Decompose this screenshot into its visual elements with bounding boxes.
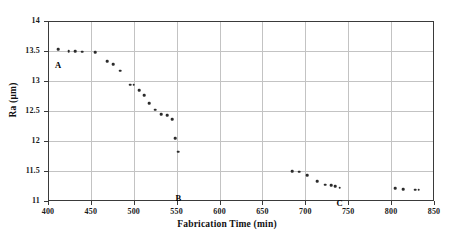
data-point xyxy=(334,185,337,188)
x-tick-label: 400 xyxy=(28,207,68,216)
data-point xyxy=(119,70,122,73)
data-point xyxy=(174,137,177,140)
y-tick xyxy=(44,21,48,22)
x-tick xyxy=(134,201,135,205)
x-tick xyxy=(91,201,92,205)
x-tick-label: 550 xyxy=(157,207,197,216)
x-tick-label: 650 xyxy=(242,207,282,216)
data-point xyxy=(160,113,163,116)
data-point xyxy=(81,50,84,53)
x-tick xyxy=(220,201,221,205)
x-tick xyxy=(48,201,49,205)
data-point xyxy=(166,114,169,117)
x-tick-label: 800 xyxy=(371,207,411,216)
x-tick-label: 600 xyxy=(200,207,240,216)
y-tick-label: 13.5 xyxy=(6,46,40,55)
annotation-label-b: B xyxy=(175,193,181,203)
x-tick xyxy=(262,201,263,205)
data-point xyxy=(306,174,309,177)
annotation-label-c: C xyxy=(336,198,342,208)
x-tick xyxy=(305,201,306,205)
data-point xyxy=(171,118,174,121)
y-tick xyxy=(44,51,48,52)
scatter-chart: 4004505005506006507007508008501111.51212… xyxy=(0,0,454,242)
plot-area xyxy=(48,21,434,201)
data-point xyxy=(154,109,157,112)
y-tick xyxy=(44,141,48,142)
data-point xyxy=(402,188,405,191)
x-tick-label: 450 xyxy=(71,207,111,216)
x-tick-label: 700 xyxy=(285,207,325,216)
data-point xyxy=(177,151,180,154)
y-tick xyxy=(44,111,48,112)
y-tick-label: 11.5 xyxy=(6,166,40,175)
x-tick xyxy=(348,201,349,205)
data-point xyxy=(338,187,341,190)
data-point xyxy=(57,48,60,51)
data-point xyxy=(106,60,109,63)
x-tick xyxy=(434,201,435,205)
data-point xyxy=(129,83,132,86)
data-point xyxy=(143,94,146,97)
data-point xyxy=(291,170,294,173)
gridline-horizontal xyxy=(49,51,433,52)
gridline-horizontal xyxy=(49,81,433,82)
x-tick-label: 750 xyxy=(328,207,368,216)
data-point xyxy=(112,63,115,66)
y-axis-title: Ra (µm) xyxy=(8,60,18,140)
x-axis-title: Fabrication Time (min) xyxy=(0,219,454,229)
data-point xyxy=(138,89,141,92)
x-tick-label: 850 xyxy=(414,207,454,216)
data-point xyxy=(132,83,135,86)
data-point xyxy=(324,184,327,187)
data-point xyxy=(94,51,97,54)
data-point xyxy=(394,187,397,190)
y-tick xyxy=(44,201,48,202)
data-point xyxy=(67,50,70,53)
y-tick-label: 14 xyxy=(6,16,40,25)
y-tick xyxy=(44,81,48,82)
y-tick xyxy=(44,171,48,172)
data-point xyxy=(298,170,301,173)
data-point xyxy=(414,188,417,191)
x-tick-label: 500 xyxy=(114,207,154,216)
data-point xyxy=(148,102,151,105)
data-point xyxy=(74,50,77,53)
gridline-horizontal xyxy=(49,171,433,172)
data-point xyxy=(330,184,333,187)
x-tick xyxy=(391,201,392,205)
gridline-horizontal xyxy=(49,141,433,142)
data-point xyxy=(417,188,420,191)
annotation-label-a: A xyxy=(55,60,61,70)
data-point xyxy=(316,180,319,183)
y-tick-label: 11 xyxy=(6,196,40,205)
gridline-horizontal xyxy=(49,111,433,112)
